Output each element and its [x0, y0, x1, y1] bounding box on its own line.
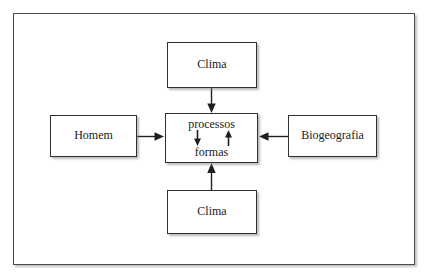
node-biogeografia[interactable]: Biogeografia — [288, 115, 377, 157]
node-clima-top-label: Clima — [197, 58, 226, 71]
node-biogeografia-label: Biogeografia — [301, 129, 364, 142]
diagram-canvas: Clima Homem Biogeografia Clima processos… — [0, 0, 427, 279]
arrow-up-icon — [224, 130, 233, 146]
node-clima-bottom-label: Clima — [197, 205, 226, 218]
node-homem-label: Homem — [74, 129, 113, 142]
node-processos-formas[interactable]: processos formas — [165, 113, 258, 163]
node-homem[interactable]: Homem — [50, 115, 137, 157]
center-inner-arrows — [166, 130, 257, 146]
arrow-down-icon — [193, 130, 202, 146]
node-clima-top[interactable]: Clima — [167, 42, 257, 88]
node-clima-bottom[interactable]: Clima — [167, 190, 257, 234]
node-center-label-processos: processos — [188, 118, 235, 130]
node-center-label-formas: formas — [195, 146, 228, 158]
